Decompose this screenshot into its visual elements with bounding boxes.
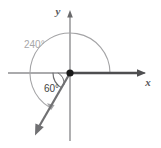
y-axis-label: y <box>54 5 61 17</box>
major-angle-label: 240° <box>24 39 45 50</box>
x-axis-label: x <box>144 76 151 88</box>
angle-diagram-canvas: y x 240° 60° <box>0 0 161 148</box>
axes-group <box>8 10 145 141</box>
initial-side-group <box>70 69 146 77</box>
reference-angle-label: 60° <box>44 83 59 94</box>
terminal-side-arrowhead-icon <box>35 124 44 136</box>
angle-diagram-figure: y x 240° 60° <box>0 0 161 148</box>
origin-point <box>66 69 73 76</box>
y-axis-arrowhead-icon <box>67 10 73 18</box>
